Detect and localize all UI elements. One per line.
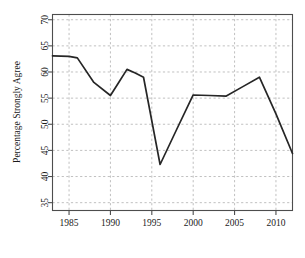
chart-container: 3540455055606570 19851990199520002005201… (0, 0, 305, 258)
x-tick-label: 2000 (184, 218, 203, 228)
y-tick-label: 35 (40, 198, 50, 208)
y-tick-label: 50 (40, 119, 50, 129)
y-axis: 3540455055606570 (40, 15, 53, 208)
x-tick-label: 2005 (225, 218, 244, 228)
x-tick-label: 1995 (142, 218, 161, 228)
x-axis-tick-labels: 198519901995200020052010 (60, 218, 286, 228)
y-tick-label: 60 (40, 67, 50, 77)
x-tick-label: 1985 (60, 218, 79, 228)
line-chart: 3540455055606570 19851990199520002005201… (0, 0, 305, 258)
y-axis-tick-labels: 3540455055606570 (40, 15, 50, 208)
y-tick-label: 45 (40, 145, 50, 155)
gridlines (53, 15, 293, 211)
x-tick-label: 2010 (266, 218, 285, 228)
y-tick-label: 40 (40, 172, 50, 182)
plot-frame (53, 15, 293, 211)
y-tick-label: 55 (40, 93, 50, 103)
y-axis-title: Percentage Strongly Agree (12, 61, 22, 163)
x-tick-label: 1990 (101, 218, 120, 228)
y-tick-label: 65 (40, 41, 50, 51)
x-axis-ticks (69, 211, 276, 216)
x-axis: 198519901995200020052010 (60, 211, 286, 228)
y-tick-label: 70 (40, 15, 50, 25)
